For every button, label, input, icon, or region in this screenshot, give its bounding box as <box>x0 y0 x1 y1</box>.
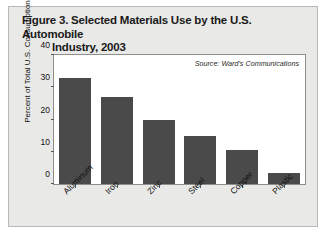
figure-title-line-2: Industry, 2003 <box>22 41 310 55</box>
bar-rect <box>101 97 133 184</box>
y-axis-title: Percent of Total U.S. Consumption <box>23 0 32 187</box>
figure-container: Figure 3. Selected Materials Use by the … <box>8 6 318 227</box>
bar-rect <box>143 120 175 185</box>
y-tick-label: 40 <box>41 40 50 50</box>
figure-title-line-1: Figure 3. Selected Materials Use by the … <box>22 14 252 40</box>
y-tick-label: 10 <box>41 137 50 147</box>
bars-layer <box>54 55 305 184</box>
y-tick-label: 0 <box>45 169 50 179</box>
y-tick-label: 30 <box>41 72 50 82</box>
y-tick-label: 20 <box>41 105 50 115</box>
figure-title: Figure 3. Selected Materials Use by the … <box>22 14 310 55</box>
